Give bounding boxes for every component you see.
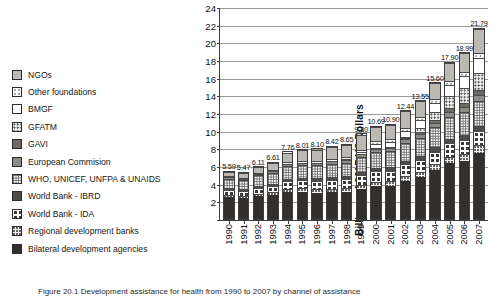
bar-segment xyxy=(312,193,321,219)
stacked-bar[interactable]: 18.99 xyxy=(459,52,470,220)
bar-segment xyxy=(357,135,366,150)
x-tick-mark xyxy=(244,220,245,224)
x-tick-mark xyxy=(332,220,333,224)
bar-segment xyxy=(460,88,469,103)
stacked-bar[interactable]: 17.90 xyxy=(444,62,455,220)
bar-segment xyxy=(283,153,292,163)
bar-column: 10.692000 xyxy=(369,8,384,220)
bar-segment xyxy=(474,29,483,53)
x-axis-tick-label: 1993 xyxy=(268,224,278,245)
legend-item-label: Regional development banks xyxy=(28,226,139,236)
x-tick-mark xyxy=(229,220,230,224)
legend-swatch-icon xyxy=(12,122,22,132)
x-axis-tick-label: 1991 xyxy=(239,224,249,245)
y-axis-tick-label: 14 xyxy=(205,91,216,102)
stacked-bar[interactable]: 6.11 xyxy=(253,166,264,220)
bar-column: 8.421997 xyxy=(325,8,340,220)
x-tick-mark xyxy=(302,220,303,224)
y-axis-tick-label: 16 xyxy=(205,73,216,84)
bar-column: 17.902005 xyxy=(442,8,457,220)
bar-column: 5.471991 xyxy=(236,8,251,220)
bar-segment xyxy=(416,101,425,117)
stacked-bar[interactable]: 10.90 xyxy=(385,124,396,220)
bar-segment xyxy=(327,192,336,219)
bar-segment xyxy=(342,179,351,188)
x-axis-tick-label: 1995 xyxy=(297,224,307,245)
bar-segment xyxy=(298,150,307,160)
legend-swatch-icon xyxy=(12,209,22,219)
x-tick-mark xyxy=(450,220,451,224)
bar-segment xyxy=(268,173,277,184)
x-axis-tick-label: 2007 xyxy=(474,224,484,245)
bar-value-label: 5.47 xyxy=(237,163,250,172)
stacked-bar[interactable]: 8.42 xyxy=(326,146,337,220)
legend-swatch-icon xyxy=(12,87,22,97)
x-tick-mark xyxy=(479,220,480,224)
bar-column: 6.611993 xyxy=(266,8,281,220)
stacked-bar[interactable]: 9.80 xyxy=(356,133,367,220)
legend-item-label: GFATM xyxy=(28,122,57,132)
y-axis-tick-label: 22 xyxy=(205,20,216,31)
stacked-bar[interactable]: 5.59 xyxy=(223,171,234,220)
y-axis-tick-label: 2 xyxy=(211,197,216,208)
y-axis-tick-label: 4 xyxy=(211,179,216,190)
x-axis-tick-label: 1994 xyxy=(283,224,293,245)
x-axis-tick-label: 1992 xyxy=(253,224,263,245)
bar-segment xyxy=(416,177,425,219)
bar-segment xyxy=(416,138,425,156)
bar-value-label: 6.11 xyxy=(252,158,265,167)
bar-segment xyxy=(445,96,454,108)
bar-value-label: 17.90 xyxy=(441,53,458,62)
y-axis-tick-label: 18 xyxy=(205,56,216,67)
bar-segment xyxy=(386,151,395,167)
x-tick-mark xyxy=(464,220,465,224)
bar-segment xyxy=(283,192,292,219)
bar-segment xyxy=(416,120,425,127)
bar-segment xyxy=(460,53,469,71)
legend-item: BMGF xyxy=(12,101,172,118)
bar-segment xyxy=(474,145,483,152)
bar-segment xyxy=(357,175,366,184)
legend-item-label: World Bank - IBRD xyxy=(28,191,100,201)
stacked-bar[interactable]: 8.10 xyxy=(311,148,322,220)
x-axis-tick-label: 1998 xyxy=(342,224,352,245)
stacked-bar[interactable]: 12.44 xyxy=(400,110,411,220)
stacked-bar[interactable]: 6.61 xyxy=(267,162,278,220)
x-tick-mark xyxy=(405,220,406,224)
x-tick-mark xyxy=(420,220,421,224)
legend-item: Other foundations xyxy=(12,83,172,100)
stacked-bar[interactable]: 13.55 xyxy=(415,100,426,220)
stacked-bar[interactable]: 10.69 xyxy=(370,126,381,220)
bar-segment xyxy=(298,165,307,178)
legend-item-label: WHO, UNICEF, UNFPA & UNAIDS xyxy=(28,174,161,184)
legend-item-label: Other foundations xyxy=(28,87,96,97)
x-tick-mark xyxy=(288,220,289,224)
stacked-bar[interactable]: 21.79 xyxy=(473,28,484,220)
bar-value-label: 21.79 xyxy=(470,19,487,28)
x-tick-mark xyxy=(317,220,318,224)
stacked-bar[interactable]: 7.76 xyxy=(282,151,293,220)
legend-item-label: World Bank - IDA xyxy=(28,209,94,219)
legend-item: GFATM xyxy=(12,118,172,135)
bar-column: 12.442002 xyxy=(398,8,413,220)
legend-item: World Bank - IBRD xyxy=(12,188,172,205)
stacked-bar[interactable]: 15.60 xyxy=(429,82,440,220)
bar-segment xyxy=(342,192,351,219)
stacked-bar[interactable]: 8.01 xyxy=(297,149,308,220)
stacked-bar[interactable]: 5.47 xyxy=(238,172,249,220)
bar-segment xyxy=(460,161,469,219)
bar-segment xyxy=(474,131,483,146)
bar-segment xyxy=(474,58,483,72)
y-axis-tick-label: 8 xyxy=(211,144,216,155)
plot-area: Billions of 2007 US Dollars 246810121416… xyxy=(183,8,489,236)
legend-swatch-icon xyxy=(12,244,22,254)
stacked-bar[interactable]: 8.65 xyxy=(341,144,352,220)
bar-segment xyxy=(298,180,307,188)
bar-segment xyxy=(460,112,469,135)
bar-segment xyxy=(460,140,469,154)
bar-value-label: 8.10 xyxy=(310,140,323,149)
bar-segment xyxy=(371,186,380,219)
x-axis-tick-label: 2002 xyxy=(400,224,410,245)
bar-column: 15.602004 xyxy=(428,8,443,220)
legend-swatch-icon xyxy=(12,157,22,167)
